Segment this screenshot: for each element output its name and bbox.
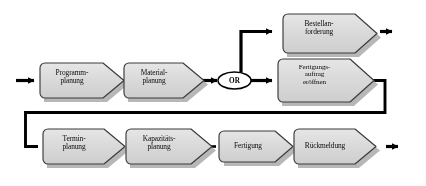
diagram-vector-layer	[0, 0, 426, 186]
or-gate-label: OR	[218, 77, 251, 85]
branch-up-arrow	[241, 32, 272, 73]
process-diagram-canvas: Bestellan- forderung Programm- planung M…	[0, 0, 426, 186]
